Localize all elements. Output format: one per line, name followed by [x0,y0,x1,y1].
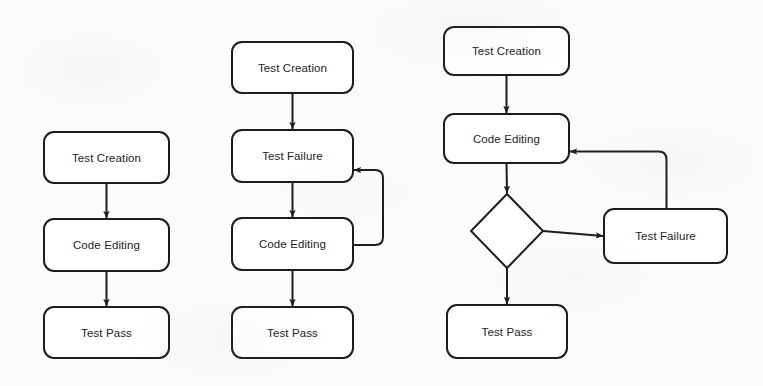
node-label-code-editing-c2: Code Editing [473,133,540,145]
node-label-test-creation-b1: Test Creation [258,62,327,74]
node-label-code-editing-a2: Code Editing [73,239,140,251]
node-label-test-pass-a3: Test Pass [81,327,132,339]
node-label-test-failure-c5: Test Failure [635,230,696,242]
node-label-test-creation-a1: Test Creation [72,152,141,164]
node-label-test-pass-c4: Test Pass [482,326,533,338]
node-label-test-pass-b4: Test Pass [267,327,318,339]
edge-c5-to-c2 [570,152,667,210]
node-shape-layer [44,27,727,358]
node-label-test-failure-b2: Test Failure [262,150,323,162]
node-decision-c3[interactable] [471,194,543,268]
node-label-test-creation-c1: Test Creation [472,45,541,57]
edge-c3-to-c5 [543,231,603,236]
edge-layer [107,75,667,306]
edge-b3-to-b2 [353,170,383,245]
edge-c2-to-c3 [507,163,508,193]
node-label-code-editing-b3: Code Editing [259,238,326,250]
